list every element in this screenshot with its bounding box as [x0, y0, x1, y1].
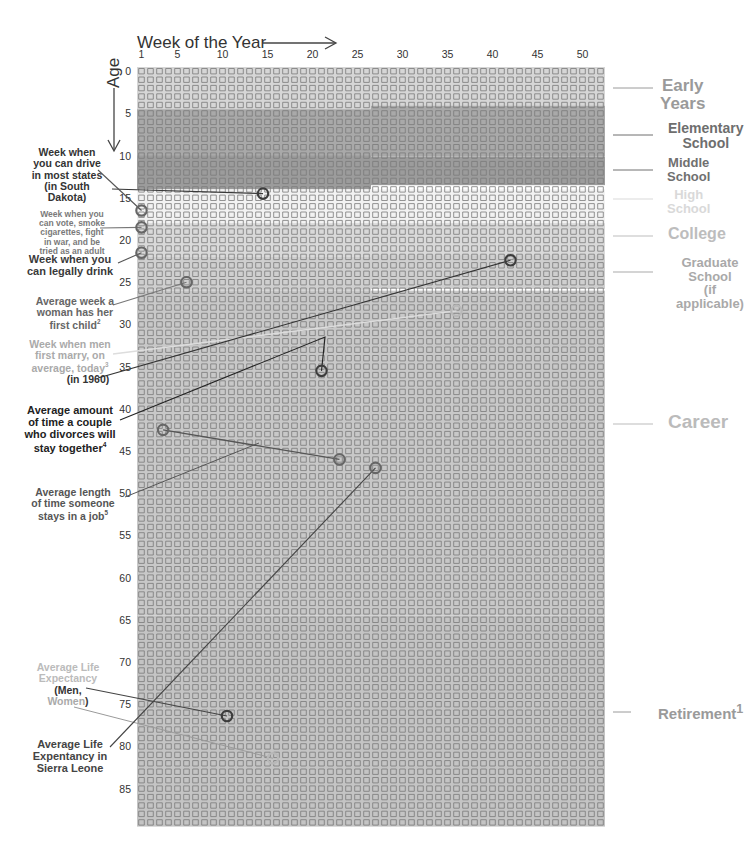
x-tick-label: 30	[397, 48, 409, 60]
y-tick-label: 25	[119, 276, 131, 288]
annotation-drink: Week when youcan legally drink	[5, 254, 135, 278]
band-graduate	[371, 255, 605, 289]
x-tick-label: 50	[577, 48, 589, 60]
band-graduate	[137, 257, 371, 291]
stage-label-elementary: ElementarySchool	[668, 121, 743, 150]
x-tick-label: 20	[307, 48, 319, 60]
annotation-life-exp: Average LifeExpectancy(Men,Women)	[3, 662, 133, 707]
stage-label-career: Career	[668, 412, 728, 432]
y-tick-label: 5	[125, 107, 131, 119]
stage-label-high: HighSchool	[667, 188, 710, 215]
stage-label-graduate: GraduateSchool(if applicable)	[670, 256, 750, 311]
x-tick-label: 35	[442, 48, 454, 60]
x-tick-label: 45	[532, 48, 544, 60]
band-middle	[371, 156, 605, 185]
annotation-sierra-leone: Average LifeExpentancy inSierra Leone	[5, 739, 135, 775]
stage-label-early: EarlyYears	[660, 77, 705, 113]
x-tick-label: 40	[487, 48, 499, 60]
annotation-first-child: Average week awoman has herfirst child2	[10, 296, 140, 330]
stage-label-college: College	[668, 226, 726, 243]
y-tick-label: 60	[119, 572, 131, 584]
band-elementary	[137, 109, 371, 160]
y-axis-arrow-icon	[108, 88, 120, 151]
y-tick-label: 85	[119, 783, 131, 795]
stage-label-retirement: Retirement1	[658, 703, 743, 722]
band-elementary	[371, 106, 605, 157]
annotation-marry-today: Week when menfirst marry, onaverage, tod…	[5, 339, 135, 373]
x-axis-arrow-icon	[263, 37, 336, 49]
y-tick-label: 65	[119, 614, 131, 626]
annotation-vote: Week when youcan vote, smokecigarettes, …	[7, 210, 137, 256]
band-middle	[137, 156, 371, 190]
y-tick-label: 55	[119, 529, 131, 541]
x-tick-label: 25	[352, 48, 364, 60]
annotation-life-exp-men-women: (Men,Women)	[3, 685, 133, 708]
y-tick-label: 0	[125, 65, 131, 77]
x-axis-title: Week of the Year	[137, 33, 266, 53]
y-axis-title: Age	[104, 58, 124, 88]
stage-tick-lines	[613, 88, 653, 712]
annotation-marry-1960: (in 1960)	[23, 374, 153, 385]
stage-label-middle: MiddleSchool	[667, 156, 710, 183]
annotation-drive: Week whenyou can drivein most states(in …	[2, 147, 132, 204]
annotation-job: Average lengthof time someonestays in a …	[8, 487, 138, 521]
annotation-divorce: Average amountof time a couplewho divorc…	[5, 405, 135, 454]
